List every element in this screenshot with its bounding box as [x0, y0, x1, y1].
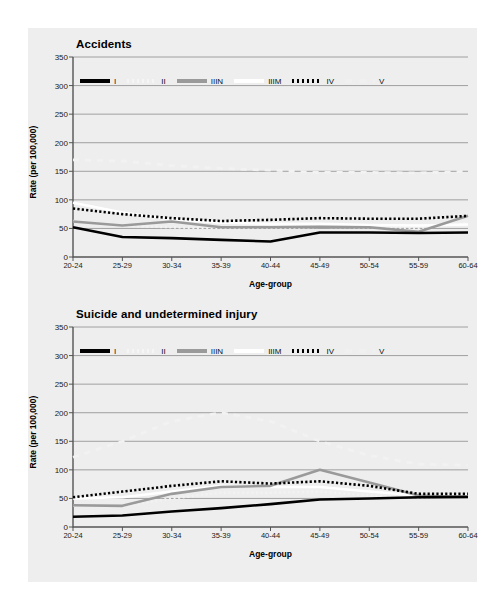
y-tick-label: 350: [55, 323, 68, 332]
legend-item-iv[interactable]: IV: [292, 347, 334, 356]
y-tick-label: 50: [59, 224, 68, 233]
chart-accidents: Accidents Rate (per 100,000) Age-group 0…: [28, 34, 477, 304]
legend-item-v[interactable]: V: [345, 347, 384, 356]
legend-label-i: I: [114, 77, 116, 86]
legend-swatch-iiin-icon: [177, 349, 207, 352]
legend-label-ii: II: [161, 77, 165, 86]
x-tick-label: 20-24: [63, 531, 82, 540]
legend-swatch-ii-icon: [127, 349, 157, 352]
x-tick-label: 50-54: [360, 261, 379, 270]
legend-label-v: V: [379, 347, 384, 356]
legend-label-iv: IV: [326, 347, 334, 356]
legend-item-iiin[interactable]: IIIN: [177, 347, 223, 356]
y-tick-label: 250: [55, 380, 68, 389]
x-tick-label: 30-34: [162, 261, 181, 270]
legend-item-iiim[interactable]: IIIM: [234, 77, 281, 86]
series-line-iiim: [73, 203, 468, 226]
legend-swatch-i-icon: [80, 79, 110, 82]
y-tick-label: 350: [55, 53, 68, 62]
legend-swatch-iiin-icon: [177, 79, 207, 82]
y-tick-label: 200: [55, 408, 68, 417]
y-tick-label: 300: [55, 81, 68, 90]
legend-label-iv: IV: [326, 77, 334, 86]
legend-label-ii: II: [161, 347, 165, 356]
screenshot-root: Accidents Rate (per 100,000) Age-group 0…: [0, 0, 498, 610]
x-tick-label: 45-49: [310, 261, 329, 270]
legend-suicide: IIIIIINIIIMIVV: [80, 344, 460, 358]
legend-label-v: V: [379, 77, 384, 86]
legend-swatch-ii-icon: [127, 79, 157, 82]
y-tick-label: 250: [55, 110, 68, 119]
y-axis-label-suicide: Rate (per 100,000): [28, 352, 38, 512]
legend-item-ii[interactable]: II: [127, 77, 165, 86]
y-tick-label: 200: [55, 138, 68, 147]
legend-swatch-iiim-icon: [234, 79, 264, 82]
x-tick-label: 20-24: [63, 261, 82, 270]
legend-swatch-iv-icon: [292, 79, 322, 82]
chart-title-suicide: Suicide and undetermined injury: [76, 308, 257, 320]
x-tick-label: 35-39: [212, 261, 231, 270]
legend-label-i: I: [114, 347, 116, 356]
x-axis-label-suicide: Age-group: [73, 549, 468, 559]
x-tick-label: 60-64: [458, 531, 477, 540]
legend-swatch-iv-icon: [292, 349, 322, 352]
legend-swatch-v-icon: [345, 349, 375, 352]
figure-panel: Accidents Rate (per 100,000) Age-group 0…: [28, 28, 477, 582]
y-tick-label: 150: [55, 437, 68, 446]
legend-item-iiim[interactable]: IIIM: [234, 347, 281, 356]
x-tick-label: 40-44: [261, 261, 280, 270]
chart-title-accidents: Accidents: [76, 38, 132, 50]
legend-item-i[interactable]: I: [80, 347, 116, 356]
legend-label-iiin: IIIN: [211, 347, 223, 356]
y-tick-label: 100: [55, 195, 68, 204]
x-tick-label: 55-59: [409, 531, 428, 540]
x-tick-label: 35-39: [212, 531, 231, 540]
x-tick-label: 25-29: [113, 531, 132, 540]
y-tick-label: 300: [55, 351, 68, 360]
y-tick-label: 100: [55, 465, 68, 474]
legend-swatch-v-icon: [345, 79, 375, 82]
legend-accidents: IIIIIINIIIMIVV: [80, 74, 460, 88]
legend-swatch-iiim-icon: [234, 349, 264, 352]
x-tick-label: 50-54: [360, 531, 379, 540]
legend-item-iiin[interactable]: IIIN: [177, 77, 223, 86]
legend-swatch-i-icon: [80, 349, 110, 352]
y-tick-label: 50: [59, 494, 68, 503]
legend-item-iv[interactable]: IV: [292, 77, 334, 86]
legend-item-ii[interactable]: II: [127, 347, 165, 356]
series-line-i: [73, 497, 468, 517]
x-tick-label: 55-59: [409, 261, 428, 270]
legend-label-iiim: IIIM: [268, 347, 281, 356]
x-tick-label: 25-29: [113, 261, 132, 270]
chart-suicide: Suicide and undetermined injury Rate (pe…: [28, 304, 477, 576]
y-tick-label: 150: [55, 167, 68, 176]
x-tick-label: 60-64: [458, 261, 477, 270]
x-tick-label: 40-44: [261, 531, 280, 540]
y-axis-label-accidents: Rate (per 100,000): [28, 82, 38, 242]
legend-label-iiim: IIIM: [268, 77, 281, 86]
x-tick-label: 30-34: [162, 531, 181, 540]
x-tick-label: 45-49: [310, 531, 329, 540]
x-axis-label-accidents: Age-group: [73, 279, 468, 289]
legend-item-v[interactable]: V: [345, 77, 384, 86]
series-line-v: [73, 413, 468, 466]
legend-item-i[interactable]: I: [80, 77, 116, 86]
legend-label-iiin: IIIN: [211, 77, 223, 86]
